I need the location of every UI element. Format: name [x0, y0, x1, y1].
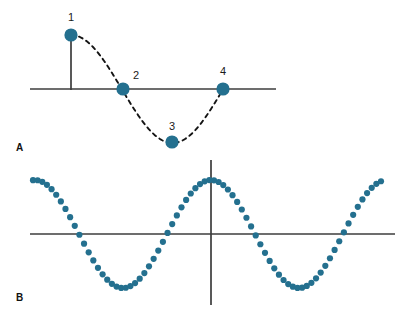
panel-b-wave-dot [67, 214, 73, 220]
panel-b-wave-dot [262, 250, 268, 256]
panel-b-wave-dot [359, 196, 365, 202]
panel-b-wave-dot [243, 215, 249, 221]
panel-b-wave-dot [72, 223, 78, 229]
panel-b-wave-dot [104, 277, 110, 283]
panel-b-wave-dot [155, 247, 161, 253]
panel-b-wave-dot [81, 241, 87, 247]
panel-b-wave-dot [336, 238, 342, 244]
sine-wave-figure: 1234 A B [0, 0, 404, 316]
panel-b-wave-dot [164, 230, 170, 236]
panel-b-wave-dot [151, 256, 157, 262]
panel-b-wave-dot [267, 258, 273, 264]
panel-a-point-4 [216, 82, 229, 95]
panel-b-wave-dot [350, 212, 356, 218]
panel-b-wave-dot [341, 229, 347, 235]
panel-b-wave-dot [345, 220, 351, 226]
panel-b-wave-dot [378, 178, 384, 184]
panel-b-wave-dot [174, 212, 180, 218]
panel-b-wave-dot [322, 263, 328, 269]
panel-b-wave-dot [234, 199, 240, 205]
panel-b-wave-dot [276, 272, 282, 278]
panel-a-point-label-2: 2 [133, 69, 139, 81]
panel-b-wave-dot [225, 186, 231, 192]
panel-a-point-label-4: 4 [220, 65, 226, 77]
panel-b-wave-dot [248, 223, 254, 229]
panel-b-wave-dot [271, 265, 277, 271]
panel-a-point-label-3: 3 [169, 120, 175, 132]
panel-b-wave-dot [169, 221, 175, 227]
panel-b-wave-dot [58, 198, 64, 204]
panel-b-wave-dot [132, 280, 138, 286]
panel-b-wave-dot [332, 247, 338, 253]
panel-b-wave-dot [318, 270, 324, 276]
panel-b-wave-dot [313, 275, 319, 281]
panel-b-wave-dot [160, 239, 166, 245]
panel-b-wave-dot [364, 190, 370, 196]
panel-b-wave-dot [188, 190, 194, 196]
panel-b-wave-dot [183, 197, 189, 203]
panel-b-wave-dot [355, 204, 361, 210]
panel-b-wave-dot [327, 255, 333, 261]
panel-b-wave-dot [48, 186, 54, 192]
panel-a: 1234 A [16, 11, 276, 153]
panel-b-wave-dot [90, 257, 96, 263]
panel-b-wave-dot [44, 182, 50, 188]
panel-b-wave-dot [257, 241, 263, 247]
panel-b-wave-dot [220, 182, 226, 188]
panel-b-wave-dot [178, 204, 184, 210]
panel-b-wave-dot [62, 206, 68, 212]
panel-a-letter: A [16, 142, 23, 153]
figure-container: 1234 A B [0, 0, 404, 316]
panel-a-point-1 [64, 28, 77, 41]
panel-a-point-3 [165, 135, 178, 148]
panel-b-wave-dot [76, 232, 82, 238]
panel-b-wave-dot [229, 192, 235, 198]
panel-b: B [16, 160, 395, 305]
panel-b-wave-dot [86, 249, 92, 255]
panel-b-wave-dot [253, 232, 259, 238]
panel-b-wave-dot [100, 271, 106, 277]
panel-b-letter: B [16, 292, 23, 303]
panel-b-wave-dot [53, 192, 59, 198]
panel-b-wave-dot [141, 270, 147, 276]
panel-a-point-labels: 1234 [68, 11, 226, 132]
panel-b-wave-dot [308, 280, 314, 286]
panel-a-point-label-1: 1 [68, 11, 74, 23]
panel-b-wave-dot [239, 206, 245, 212]
panel-b-wave-dot [192, 185, 198, 191]
panel-b-wave-dot [95, 265, 101, 271]
panel-a-point-2 [116, 82, 129, 95]
panel-b-wave-dot [146, 263, 152, 269]
panel-b-wave-dot [137, 276, 143, 282]
